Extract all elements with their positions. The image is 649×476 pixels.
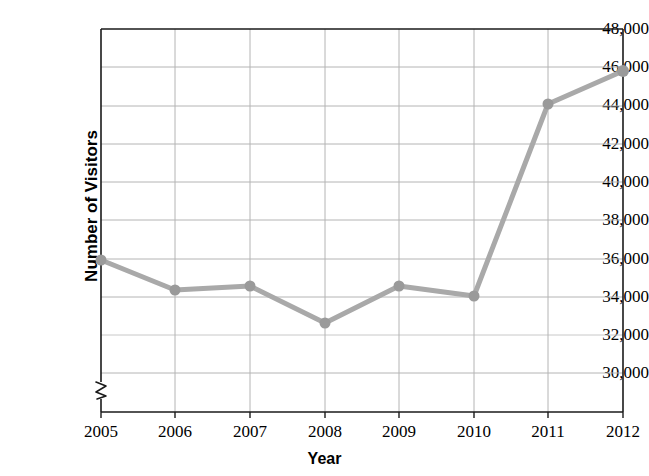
x-axis-ticks: [101, 412, 623, 418]
x-tick-label-2007: 2007: [212, 422, 288, 442]
series-line-number-of-visitors: [101, 71, 623, 323]
data-point-2009: [394, 281, 405, 292]
data-point-2010: [469, 291, 480, 302]
data-point-2011: [543, 99, 554, 110]
x-tick-label-2010: 2010: [436, 422, 512, 442]
data-point-2005: [96, 255, 107, 266]
data-point-2012: [617, 65, 629, 77]
x-tick-label-2008: 2008: [287, 422, 363, 442]
x-tick-label-2012: 2012: [585, 422, 649, 442]
x-tick-label-2005: 2005: [63, 422, 139, 442]
x-tick-label-2009: 2009: [361, 422, 437, 442]
line-chart: Number of Visitors 48,000 46,000 44,000 …: [0, 0, 649, 476]
x-tick-label-2006: 2006: [137, 422, 213, 442]
plot-area: [0, 0, 649, 476]
data-point-2007: [245, 281, 256, 292]
axis-break-icon: [96, 382, 106, 399]
x-axis-title: Year: [0, 450, 649, 468]
x-tick-label-2011: 2011: [510, 422, 586, 442]
data-point-2008: [320, 318, 331, 329]
series-markers: [96, 65, 630, 329]
data-point-2006: [170, 285, 181, 296]
